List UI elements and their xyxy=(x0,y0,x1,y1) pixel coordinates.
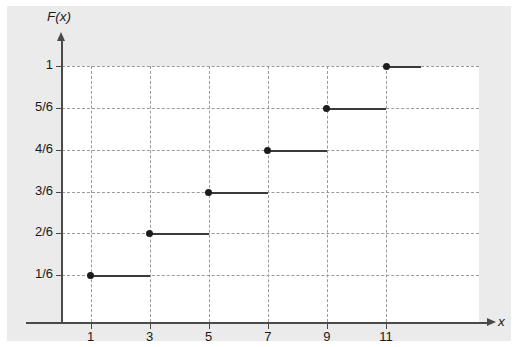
y-tick-mark xyxy=(56,275,62,276)
step-segment xyxy=(91,275,150,277)
gridline-horizontal xyxy=(62,108,479,109)
cdf-step-chart: F(x) x 1/62/63/64/65/61 1357911 xyxy=(0,0,518,347)
gridline-vertical xyxy=(150,66,151,322)
x-tick-label: 3 xyxy=(130,329,170,344)
step-segment xyxy=(209,192,268,194)
y-tick-label: 2/6 xyxy=(3,224,53,239)
y-tick-label: 1/6 xyxy=(3,266,53,281)
x-axis-arrow-icon xyxy=(487,318,496,326)
y-axis-title: F(x) xyxy=(47,9,71,24)
step-segment xyxy=(150,233,209,235)
gridline-horizontal xyxy=(62,192,479,193)
x-tick-label: 1 xyxy=(71,329,111,344)
y-tick-label: 4/6 xyxy=(3,141,53,156)
x-tick-label: 5 xyxy=(189,329,229,344)
data-point-marker xyxy=(205,189,212,196)
y-axis xyxy=(61,40,63,324)
data-point-marker xyxy=(383,63,390,70)
x-tick-label: 9 xyxy=(307,329,347,344)
y-tick-mark xyxy=(56,108,62,109)
gridline-vertical xyxy=(386,66,387,322)
x-tick-label: 11 xyxy=(366,329,406,344)
gridline-horizontal xyxy=(62,233,479,234)
gridline-vertical xyxy=(268,66,269,322)
y-tick-label: 1 xyxy=(3,57,53,72)
y-tick-mark xyxy=(56,233,62,234)
y-tick-mark xyxy=(56,192,62,193)
y-tick-mark xyxy=(56,150,62,151)
plot-area xyxy=(62,66,479,323)
y-tick-mark xyxy=(56,66,62,67)
x-axis xyxy=(26,322,488,324)
step-segment xyxy=(386,66,421,68)
y-tick-label: 3/6 xyxy=(3,183,53,198)
y-axis-arrow-icon xyxy=(57,32,65,41)
step-segment xyxy=(327,108,386,110)
x-tick-label: 7 xyxy=(248,329,288,344)
gridline-vertical xyxy=(91,66,92,322)
x-axis-title: x xyxy=(498,314,505,329)
y-tick-label: 5/6 xyxy=(3,99,53,114)
data-point-marker xyxy=(264,147,271,154)
step-segment xyxy=(268,150,327,152)
